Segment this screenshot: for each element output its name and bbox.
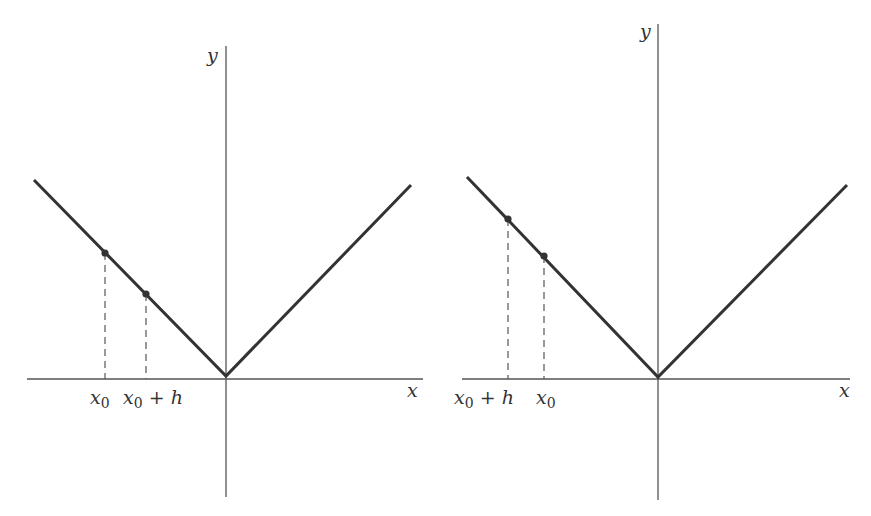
right-abs-curve [467,177,847,377]
left-abs-curve [34,180,411,376]
left-tick-label-x0-plus-h: x0 + h [123,386,183,411]
right-y-axis-label: y [639,20,651,42]
right-point-x0-plus-h [504,215,511,222]
left-panel: y x x0 x0 + h [27,44,423,497]
left-x-axis-label: x [407,379,418,401]
right-panel: y x x0 + h x0 [454,20,850,500]
left-y-axis-label: y [206,44,218,66]
right-x-axis-label: x [839,379,850,401]
right-point-x0 [540,252,547,259]
left-point-x0-plus-h [142,290,149,297]
right-tick-label-x0-plus-h: x0 + h [454,386,514,411]
left-point-x0 [101,249,108,256]
absolute-value-figure: y x x0 x0 + h y x x0 + h x0 [0,0,871,516]
right-tick-label-x0: x0 [536,386,556,411]
left-tick-label-x0: x0 [90,386,110,411]
